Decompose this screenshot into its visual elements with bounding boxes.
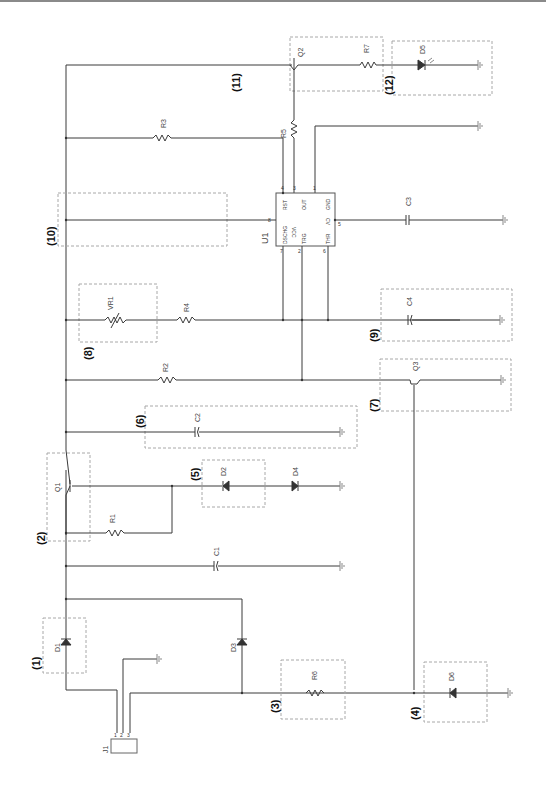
block-number-6: (6): [134, 414, 146, 428]
block-number-11: (11): [230, 73, 242, 92]
d1-label: D1: [54, 643, 61, 652]
block-4-d6: D6 (4): [409, 662, 512, 722]
j1-pin-1: 1: [114, 732, 117, 738]
block-number-9: (9): [368, 328, 380, 342]
q1-label: Q1: [54, 483, 62, 492]
block-7-q3: Q3 (7): [368, 359, 511, 690]
pin-1: 1: [313, 185, 316, 191]
pin-dschg-label: DSCHG: [282, 226, 288, 244]
block-10: (10): [45, 193, 276, 246]
resistor-r2: R2: [65, 363, 410, 383]
d2-label: D2: [220, 467, 227, 476]
block-3-r6: R6 (3): [269, 660, 345, 719]
block-2-q1: Q1 (2): [35, 450, 173, 545]
capacitor-c1: C1: [65, 547, 344, 571]
c3-label: C3: [405, 197, 412, 206]
d6-label: D6: [448, 672, 455, 681]
d5-label: D5: [419, 45, 426, 54]
pin-out-label: OUT: [301, 199, 307, 210]
d3-label: D3: [230, 643, 237, 652]
q2-label: Q2: [297, 48, 305, 57]
block-5-d2: D2 (5): [172, 460, 292, 507]
diode-d4: D4: [292, 467, 344, 491]
r7-label: R7: [363, 44, 370, 53]
block-number-8: (8): [82, 346, 94, 360]
r4-label: R4: [183, 303, 190, 312]
pin-4: 4: [281, 185, 284, 191]
j1-pin-3: 3: [127, 732, 130, 738]
j1-pin-2: 2: [120, 732, 123, 738]
u1-bottom-wires: [282, 246, 329, 381]
diode-d3: D3: [65, 598, 247, 694]
resistor-r7: R7: [355, 44, 395, 68]
block-number-4: (4): [409, 706, 421, 720]
block-8-vr1: VR1 (8): [65, 284, 177, 360]
capacitor-c3: C3: [335, 197, 507, 225]
pin-3: 3: [293, 185, 296, 191]
pin-vcc-label: VCC: [291, 227, 297, 238]
block-1-d1: D1 (1): [30, 618, 86, 673]
vr1-label: VR1: [107, 296, 114, 310]
pin-2: 2: [298, 248, 301, 254]
block-number-10: (10): [45, 226, 57, 246]
pin-gnd-label: GND: [325, 199, 331, 211]
r5-label: R5: [280, 129, 287, 138]
resistor-r3: R3: [65, 119, 283, 193]
c2-label: C2: [194, 413, 201, 422]
block-9-c4: C4 (9): [368, 289, 512, 342]
r1-label: R1: [109, 514, 116, 523]
d4-label: D4: [292, 467, 299, 476]
pin-cv-label: CV: [325, 218, 331, 226]
u1-label: U1: [260, 232, 270, 244]
schematic-canvas: Q2 (11) R7 D5 (12) R3 R5: [0, 0, 546, 788]
u1-gnd-wire: [315, 121, 482, 193]
pin-5: 5: [338, 221, 341, 227]
block-number-12: (12): [383, 75, 395, 95]
block-12-d5: D5 (12): [383, 41, 492, 95]
j1-label: J1: [102, 746, 109, 754]
c1-label: C1: [213, 547, 220, 556]
connector-j1: 1 2 3 J1: [66, 654, 414, 753]
r6-label: R6: [311, 671, 318, 680]
block-number-2: (2): [35, 531, 47, 545]
block-number-1: (1): [30, 656, 42, 670]
q3-label: Q3: [412, 362, 420, 371]
pin-rst-label: RST: [282, 200, 288, 210]
pin-trg-label: TRG: [301, 233, 307, 244]
block-number-7: (7): [368, 398, 380, 412]
r3-label: R3: [160, 119, 167, 128]
block-11-q2: Q2 (11): [230, 37, 383, 120]
pin-thr-label: THR: [325, 233, 331, 244]
block-number-5: (5): [189, 467, 201, 481]
block-6-c2: C2 (6): [65, 406, 357, 448]
pin-6: 6: [323, 248, 326, 254]
r2-label: R2: [162, 363, 169, 372]
block-number-3: (3): [269, 699, 281, 713]
c4-label: C4: [406, 297, 413, 306]
resistor-r1: R1: [65, 486, 172, 536]
